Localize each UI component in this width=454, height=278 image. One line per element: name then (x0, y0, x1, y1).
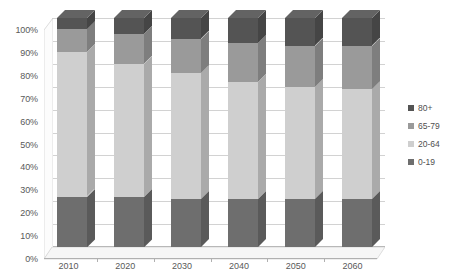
bar-segment-0-19[interactable] (57, 197, 87, 247)
bar-segment-80+[interactable] (285, 18, 315, 45)
bar-segment-65-79[interactable] (285, 46, 315, 87)
x-axis-labels: 201020202030204020502060 (44, 261, 385, 277)
bar-segment-20-64[interactable] (228, 82, 258, 199)
legend-item[interactable]: 80+ (408, 99, 454, 117)
legend-label: 0-19 (418, 158, 435, 167)
bar-segment-0-19[interactable] (228, 199, 258, 247)
y-tick-label: 100% (15, 26, 38, 35)
bar-group[interactable] (114, 18, 144, 247)
bar-segment-side-face (372, 191, 380, 247)
bar-segment-0-19[interactable] (114, 197, 144, 247)
bar-segment-0-19[interactable] (285, 199, 315, 247)
bar-top-face (285, 10, 315, 18)
y-tick-label: 20% (20, 209, 38, 218)
bar-segment-side-face (315, 79, 323, 199)
bar-stack (285, 18, 315, 247)
bar-segment-20-64[interactable] (114, 64, 144, 197)
bar-group[interactable] (342, 18, 372, 247)
legend-swatch-icon (408, 141, 414, 147)
bar-segment-20-64[interactable] (285, 87, 315, 199)
y-tick-label: 90% (20, 48, 38, 57)
y-tick-label: 70% (20, 94, 38, 103)
bar-segment-65-79[interactable] (114, 34, 144, 64)
bar-top-face (342, 10, 372, 18)
x-tick-label: 2010 (58, 261, 78, 272)
bar-top-face (114, 10, 144, 18)
x-tick-label: 2030 (172, 261, 192, 272)
legend-label: 80+ (418, 104, 432, 113)
bar-segment-side-face (201, 191, 209, 247)
bar-stack (228, 18, 258, 247)
bar-segment-65-79[interactable] (171, 39, 201, 73)
bar-top-face (171, 10, 201, 18)
stacked-bar-chart: 100% 90% 80% 70% 60% 50% 40% 30% 20% 10%… (0, 0, 454, 278)
bar-segment-side-face (258, 74, 266, 199)
bar-segment-20-64[interactable] (57, 52, 87, 196)
legend-swatch-icon (408, 159, 414, 165)
bar-segment-80+[interactable] (342, 18, 372, 45)
y-axis: 100% 90% 80% 70% 60% 50% 40% 30% 20% 10%… (0, 0, 42, 278)
bars-layer (44, 18, 385, 259)
bar-segment-side-face (87, 189, 95, 247)
bar-segment-20-64[interactable] (171, 73, 201, 199)
legend: 80+65-7920-640-19 (408, 99, 454, 171)
y-tick-label: 80% (20, 71, 38, 80)
bar-segment-side-face (201, 65, 209, 199)
bar-segment-80+[interactable] (114, 18, 144, 34)
legend-item[interactable]: 65-79 (408, 117, 454, 135)
bar-segment-65-79[interactable] (342, 46, 372, 90)
bar-stack (342, 18, 372, 247)
bar-top-face (57, 10, 87, 18)
bar-stack (57, 18, 87, 247)
bar-segment-0-19[interactable] (171, 199, 201, 247)
legend-swatch-icon (408, 123, 414, 129)
bar-segment-side-face (258, 191, 266, 247)
bar-segment-side-face (144, 189, 152, 247)
legend-label: 65-79 (418, 122, 440, 131)
bar-segment-side-face (315, 191, 323, 247)
bar-segment-80+[interactable] (57, 18, 87, 29)
bar-segment-side-face (87, 44, 95, 196)
x-tick-label: 2040 (229, 261, 249, 272)
bar-group[interactable] (57, 18, 87, 247)
y-tick-label: 10% (20, 232, 38, 241)
x-tick-label: 2050 (286, 261, 306, 272)
x-tick-label: 2060 (343, 261, 363, 272)
legend-item[interactable]: 0-19 (408, 153, 454, 171)
y-tick-label: 40% (20, 163, 38, 172)
y-tick-label: 50% (20, 140, 38, 149)
bar-segment-side-face (144, 56, 152, 197)
y-tick-label: 0% (25, 255, 38, 264)
bar-segment-80+[interactable] (228, 18, 258, 43)
bar-group[interactable] (228, 18, 258, 247)
x-tick-label: 2020 (115, 261, 135, 272)
bar-stack (114, 18, 144, 247)
bar-stack (171, 18, 201, 247)
y-tick-label: 30% (20, 186, 38, 195)
bar-segment-side-face (372, 81, 380, 199)
legend-swatch-icon (408, 105, 414, 111)
bar-segment-0-19[interactable] (342, 199, 372, 247)
bar-group[interactable] (171, 18, 201, 247)
legend-item[interactable]: 20-64 (408, 135, 454, 153)
bar-top-face (228, 10, 258, 18)
bar-segment-20-64[interactable] (342, 89, 372, 199)
bar-segment-65-79[interactable] (57, 29, 87, 52)
bar-segment-80+[interactable] (171, 18, 201, 39)
bar-group[interactable] (285, 18, 315, 247)
y-tick-label: 60% (20, 117, 38, 126)
bar-segment-65-79[interactable] (228, 43, 258, 82)
legend-label: 20-64 (418, 140, 440, 149)
